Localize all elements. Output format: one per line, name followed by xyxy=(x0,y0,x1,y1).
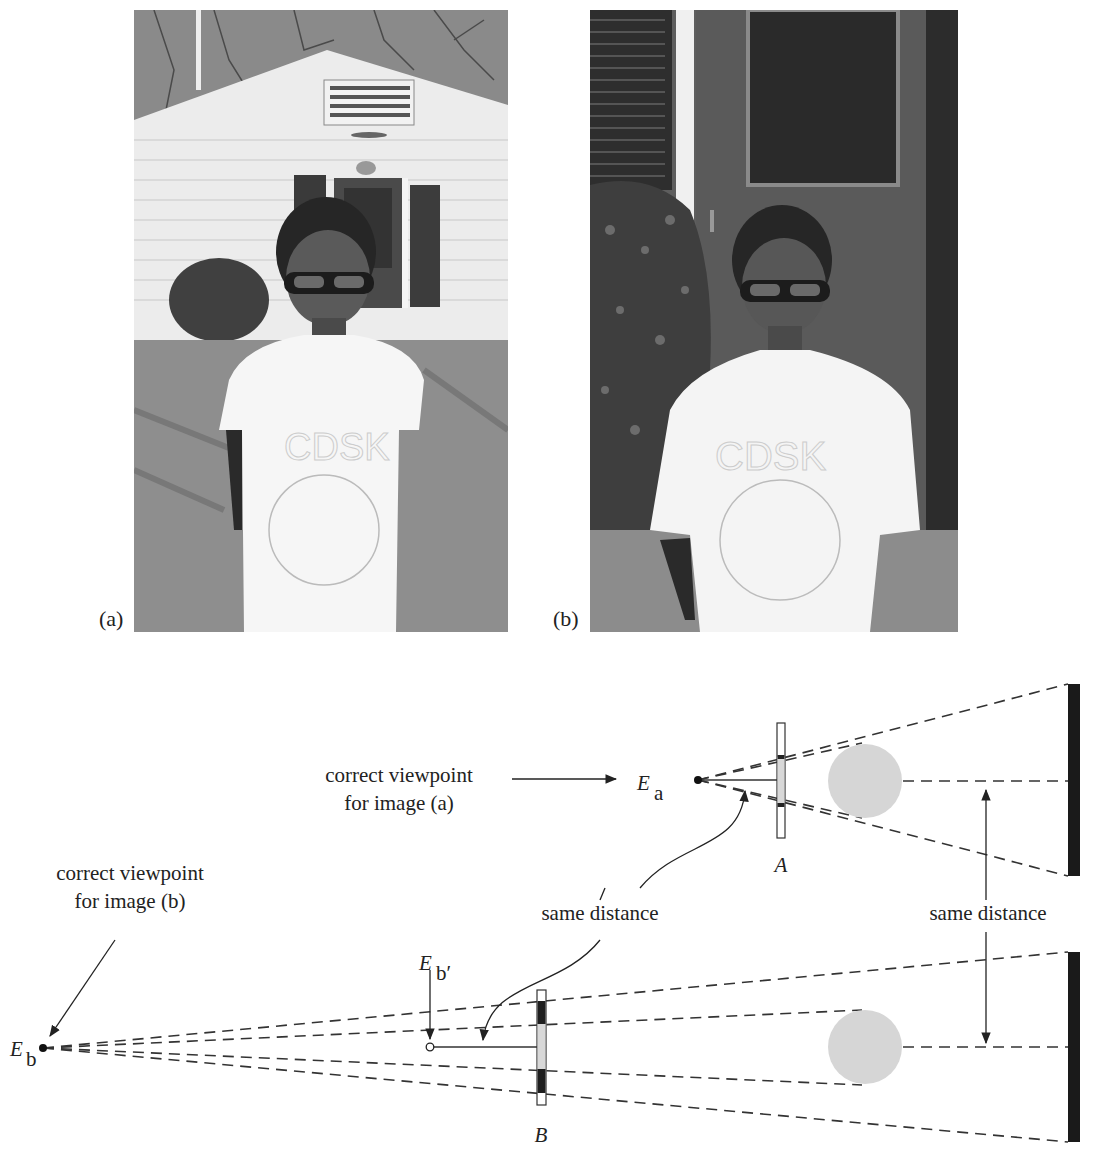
viewpoint-a-caption-line2: for image (a) xyxy=(344,791,454,815)
subject-a xyxy=(828,744,902,818)
viewpoint-b-arrow xyxy=(50,940,115,1036)
screen-b-label: B xyxy=(535,1123,548,1147)
bottom-sight-lines xyxy=(43,952,1068,1142)
same-distance-curve-arrow-top xyxy=(640,791,745,888)
viewpoint-diagram: correct viewpoint for image (a) E a A s xyxy=(0,0,1108,1173)
screen-a-image-region xyxy=(778,757,785,803)
viewpoint-b-caption-line2: for image (b) xyxy=(75,889,186,913)
viewpoint-b-caption-line1: correct viewpoint xyxy=(56,861,204,885)
same-distance-label-left: same distance xyxy=(541,901,658,925)
eye-b-point xyxy=(39,1044,47,1052)
eye-b-subscript: b xyxy=(26,1047,37,1071)
screen-b-background-band-bottom xyxy=(538,1069,546,1093)
viewpoint-a-caption-line1: correct viewpoint xyxy=(325,763,473,787)
screen-a-label: A xyxy=(773,853,788,877)
eye-b-label: E xyxy=(9,1037,23,1061)
eye-a-point xyxy=(694,776,702,784)
eye-a-label: E xyxy=(636,771,650,795)
background-wall-a xyxy=(1068,684,1080,876)
screen-b-image-region xyxy=(538,1024,546,1069)
same-distance-label-right: same distance xyxy=(929,901,1046,925)
eye-a-subscript: a xyxy=(654,781,664,805)
background-wall-b xyxy=(1068,952,1080,1142)
top-setup: correct viewpoint for image (a) E a A xyxy=(325,684,1080,888)
subject-b xyxy=(828,1010,902,1084)
eye-b-prime-subscript: b′ xyxy=(436,961,451,985)
screen-b-background-band-top xyxy=(538,1001,546,1024)
eye-b-prime-point xyxy=(426,1043,434,1051)
